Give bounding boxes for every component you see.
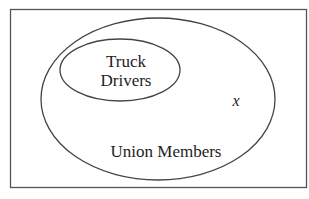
truck-drivers-label-line-1: Truck (106, 52, 146, 71)
element-x-label: x (231, 92, 239, 109)
venn-diagram: Truck Drivers x Union Members (0, 0, 309, 199)
truck-drivers-label-line-2: Drivers (101, 71, 152, 90)
union-members-label: Union Members (111, 142, 222, 161)
